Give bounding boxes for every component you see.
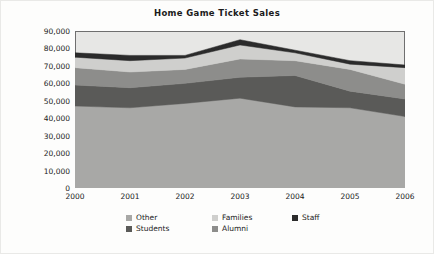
x-axis-tick-label: 2003	[220, 192, 260, 201]
legend-item-alumni[interactable]: Alumni	[212, 224, 292, 233]
legend-swatch-icon	[292, 215, 298, 221]
x-axis-tick-label: 2006	[385, 192, 425, 201]
x-axis-tick-label: 2001	[110, 192, 150, 201]
legend-item-students[interactable]: Students	[126, 224, 212, 233]
legend-row: OtherFamiliesStaff	[126, 212, 366, 223]
legend-label: Alumni	[222, 224, 248, 233]
legend-label: Other	[136, 213, 157, 222]
chart-figure: Home Game Ticket Sales Average per Game …	[0, 0, 434, 254]
legend-swatch-icon	[126, 215, 132, 221]
x-axis-tick-label: 2005	[330, 192, 370, 201]
legend-row: StudentsAlumni	[126, 223, 366, 234]
x-axis-tick-label: 2000	[55, 192, 95, 201]
legend-label: Families	[222, 213, 252, 222]
legend-item-other[interactable]: Other	[126, 213, 212, 222]
legend-label: Students	[136, 224, 169, 233]
legend-label: Staff	[302, 213, 319, 222]
x-axis-tick-label: 2004	[275, 192, 315, 201]
legend-item-families[interactable]: Families	[212, 213, 292, 222]
x-axis-tick-label: 2002	[165, 192, 205, 201]
legend-swatch-icon	[212, 226, 218, 232]
chart-legend: OtherFamiliesStaffStudentsAlumni	[126, 212, 366, 234]
legend-swatch-icon	[126, 226, 132, 232]
legend-swatch-icon	[212, 215, 218, 221]
legend-item-staff[interactable]: Staff	[292, 213, 352, 222]
